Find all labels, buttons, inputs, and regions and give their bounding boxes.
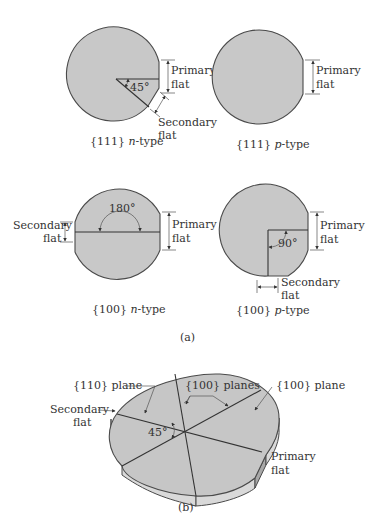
wafer-flat-diagram: 45° Primary flat Secondary flat {111} n-… (0, 0, 377, 522)
secondary-flat-label-2: flat (43, 232, 62, 245)
angle-label: 45° (130, 81, 150, 94)
planes-100-label: {100} planes (185, 379, 260, 392)
wafer-111-p-outline (212, 30, 303, 124)
primary-flat-label-1: Primary (171, 64, 216, 77)
primary-flat-label-2: flat (171, 78, 190, 91)
secondary-flat-label-2: flat (281, 289, 300, 302)
caption-100-p: {100} p-type (236, 304, 309, 317)
secondary-flat-label-1: Secondary (281, 276, 341, 289)
plane-110-label: {110} plane (73, 379, 142, 392)
wafer-111-n-outline (67, 27, 159, 121)
figure-b-label: (b) (178, 501, 194, 514)
angle-label: 180° (109, 202, 136, 215)
wafer-111-n-type: 45° Primary flat Secondary flat {111} n-… (67, 27, 218, 148)
primary-flat-label-b-2: flat (271, 464, 290, 477)
caption-111-n: {111} n-type (90, 135, 164, 148)
secondary-flat-label-1: Secondary (158, 116, 218, 129)
primary-flat-label-1: Primary (320, 219, 365, 232)
plane-100-label: {100} plane (276, 379, 345, 392)
secondary-flat-label-1: Secondary (13, 219, 73, 232)
wafer-100-n-type: 180° Primary flat Secondary flat {100} n… (13, 189, 217, 316)
angle-label: 90° (278, 237, 298, 250)
angle-label-b: 45° (148, 426, 168, 439)
caption-111-p: {111} p-type (236, 138, 309, 151)
primary-flat-label-b-1: Primary (271, 450, 316, 463)
wafer-100-p-type: 90° Primary flat Secondary flat {100} p-… (219, 184, 365, 317)
primary-flat-label-2: flat (320, 233, 339, 246)
secondary-flat-label-b-1: Secondary (50, 403, 110, 416)
secondary-flat-dimension (155, 96, 165, 113)
wafer-3d-100: 45° {110} plane {100} planes {100} plane… (50, 374, 345, 506)
primary-flat-label-2: flat (172, 232, 191, 245)
primary-flat-label-1: Primary (172, 218, 217, 231)
wafer-top-face (109, 374, 279, 496)
figure-a-label: (a) (180, 331, 195, 344)
secondary-flat-label-b-2: flat (73, 416, 92, 429)
primary-flat-label-2: flat (316, 78, 335, 91)
primary-flat-label-1: Primary (316, 64, 361, 77)
caption-100-n: {100} n-type (92, 303, 166, 316)
wafer-111-p-type: Primary flat {111} p-type (212, 30, 361, 151)
